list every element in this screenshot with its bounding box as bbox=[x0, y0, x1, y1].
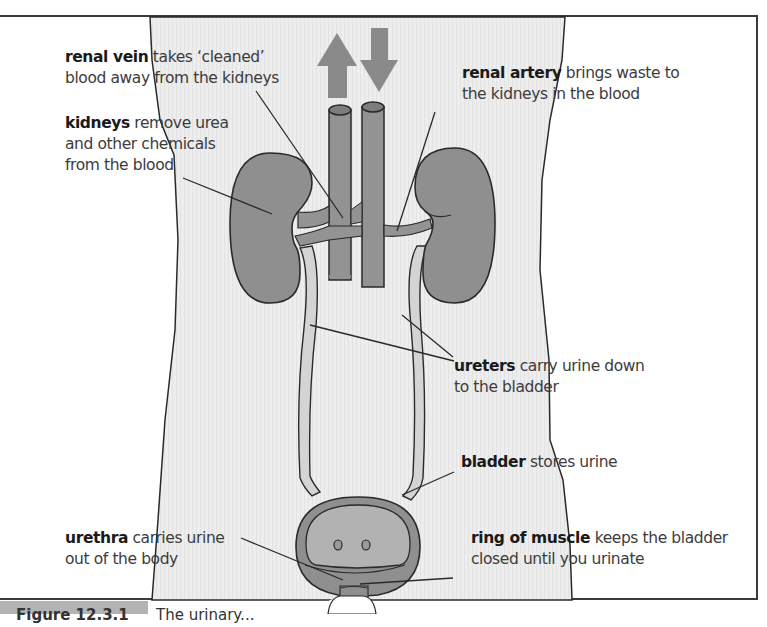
aorta bbox=[362, 102, 384, 287]
label-bladder: bladder stores urine bbox=[461, 452, 617, 473]
label-renal-artery: renal artery brings waste to the kidneys… bbox=[462, 63, 679, 105]
label-ring-of-muscle: ring of muscle keeps the bladder closed … bbox=[471, 528, 728, 570]
label-ureters: ureters carry urine down to the bladder bbox=[454, 356, 645, 398]
caption-number: Figure 12.3.1 bbox=[16, 601, 129, 627]
label-urethra: urethra carries urine out of the body bbox=[65, 528, 224, 570]
vena-cava bbox=[329, 105, 351, 280]
label-renal-vein: renal vein takes ‘cleaned’ blood away fr… bbox=[65, 47, 279, 89]
caption-text: The urinary... bbox=[156, 601, 254, 627]
label-kidneys: kidneys remove urea and other chemicals … bbox=[65, 113, 229, 176]
figure-caption: Figure 12.3.1 The urinary... bbox=[0, 601, 767, 614]
